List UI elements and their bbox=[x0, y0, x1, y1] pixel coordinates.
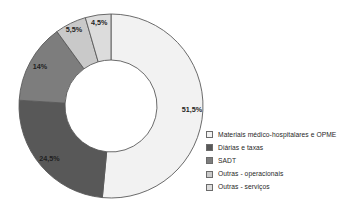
legend-item-label: Outras - serviços bbox=[218, 183, 270, 191]
donut-chart-svg: 51,5%24,5%14%5,5%4,5% bbox=[16, 6, 206, 206]
legend-swatch-icon bbox=[206, 171, 213, 178]
donut-data-label: 51,5% bbox=[182, 105, 203, 114]
donut-data-label: 14% bbox=[33, 62, 48, 71]
legend-item-label: Outras - operacionais bbox=[218, 170, 283, 178]
donut-chart-figure: 51,5%24,5%14%5,5%4,5% Materiais médico-h… bbox=[0, 0, 346, 212]
legend-swatch-icon bbox=[206, 144, 213, 151]
legend-item-outras-operacionais[interactable]: Outras - operacionais bbox=[206, 168, 342, 181]
donut-data-label: 24,5% bbox=[39, 154, 60, 163]
legend-item-diarias-e-taxas[interactable]: Diárias e taxas bbox=[206, 141, 342, 154]
donut-slice[interactable] bbox=[19, 100, 107, 197]
legend-swatch-icon bbox=[206, 184, 213, 191]
legend-item-sadt[interactable]: SADT bbox=[206, 154, 342, 167]
donut-slice-group bbox=[19, 14, 203, 198]
chart-legend: Materiais médico-hospitalares e OPME Diá… bbox=[206, 128, 342, 194]
legend-item-materiais[interactable]: Materiais médico-hospitalares e OPME bbox=[206, 128, 342, 141]
legend-item-outras-servicos[interactable]: Outras - serviços bbox=[206, 181, 342, 194]
donut-chart-plot-area: 51,5%24,5%14%5,5%4,5% bbox=[16, 6, 206, 206]
legend-swatch-icon bbox=[206, 131, 213, 138]
legend-swatch-icon bbox=[206, 157, 213, 164]
legend-item-label: Materiais médico-hospitalares e OPME bbox=[218, 131, 336, 139]
legend-item-label: Diárias e taxas bbox=[218, 144, 263, 152]
donut-data-label: 4,5% bbox=[91, 18, 108, 27]
donut-data-label: 5,5% bbox=[66, 25, 83, 34]
legend-item-label: SADT bbox=[218, 157, 236, 165]
